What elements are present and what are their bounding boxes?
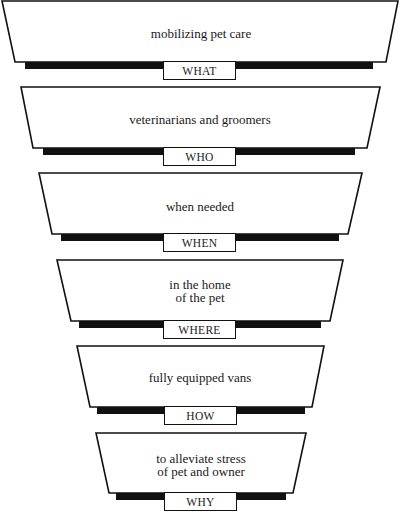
stage-line: fully equipped vans [149, 371, 252, 384]
stage-tag-label: WHO [185, 151, 213, 163]
stage-tag-label: WHAT [182, 65, 216, 77]
stage-tag-how: HOW [164, 406, 237, 425]
funnel-stage-where-text: in the home of the pet [70, 273, 330, 309]
stage-tag-when: WHEN [163, 233, 236, 252]
funnel-diagram: mobilizing pet care WHAT veterinarians a… [0, 0, 406, 523]
funnel-stage-why-text: to alleviate stress of pet and owner [108, 447, 294, 483]
stage-tag-label: WHEN [182, 237, 218, 249]
stage-tag-why: WHY [164, 492, 237, 511]
stage-tag-label: WHERE [178, 324, 220, 336]
funnel-stage-who-text: veterinarians and groomers [30, 104, 370, 134]
stage-tag-what: WHAT [163, 61, 236, 80]
stage-line: of pet and owner [157, 465, 245, 478]
stage-tag-label: HOW [186, 410, 214, 422]
stage-line: when needed [166, 200, 234, 213]
funnel-stage-how-text: fully equipped vans [88, 362, 312, 392]
stage-tag-where: WHERE [163, 320, 236, 339]
funnel-stage-what-text: mobilizing pet care [15, 18, 387, 48]
stage-line: veterinarians and groomers [129, 113, 271, 126]
stage-tag-label: WHY [186, 496, 214, 508]
funnel-stage-when-text: when needed [50, 191, 350, 221]
stage-tag-who: WHO [163, 147, 236, 166]
stage-line: of the pet [175, 291, 224, 304]
stage-line: mobilizing pet care [151, 27, 251, 40]
